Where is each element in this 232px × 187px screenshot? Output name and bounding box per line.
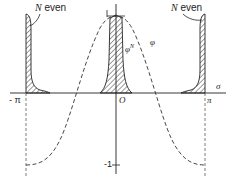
phiN-central-peak	[100, 15, 132, 93]
minus-pi-label: - π	[9, 96, 21, 105]
phi-label: φ	[150, 38, 155, 47]
phiN-label: φN	[125, 43, 134, 54]
n-even-left-leader	[30, 14, 40, 26]
phiN-right-peak	[181, 14, 205, 93]
phiN-left-peak	[26, 14, 50, 93]
n-even-left-label: N even	[35, 3, 66, 13]
sigma-label: σ	[216, 82, 220, 91]
pi-label: π	[207, 96, 212, 105]
n-even-right-label: N even	[171, 3, 202, 13]
n-even-right-leader	[183, 14, 202, 20]
origin-label: O	[119, 96, 126, 105]
phi-power-diagram	[0, 0, 232, 187]
minus-one-label: -1	[104, 160, 112, 169]
